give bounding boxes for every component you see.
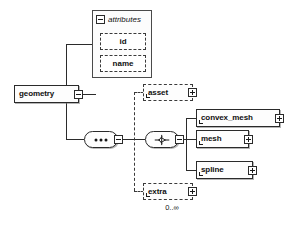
- compositor-choice-collapse-icon[interactable]: [175, 135, 184, 144]
- compositor-sequence-collapse-icon[interactable]: [114, 135, 123, 144]
- choice-switch-icon: [155, 134, 170, 145]
- element-extra-occurrence-label: 0..∞: [152, 204, 192, 212]
- element-spline-expand-icon[interactable]: [248, 166, 257, 175]
- element-geometry-collapse-icon[interactable]: [74, 90, 83, 99]
- element-mesh-required-marker: [199, 141, 203, 145]
- element-extra[interactable]: extra: [143, 183, 193, 200]
- xsd-schema-diagram: attributes id name geometry asset conve: [0, 0, 286, 225]
- element-mesh-expand-icon[interactable]: [244, 135, 253, 144]
- attribute-id[interactable]: id: [100, 33, 146, 50]
- element-spline-required-marker: [199, 172, 203, 176]
- element-convex-mesh[interactable]: convex_mesh: [196, 109, 280, 127]
- element-asset-required-marker: [146, 94, 150, 98]
- compositor-choice[interactable]: [145, 131, 179, 148]
- element-geometry-label: geometry: [15, 90, 57, 98]
- element-asset-expand-icon[interactable]: [188, 88, 197, 97]
- sequence-dots-icon: [95, 138, 108, 141]
- element-convex-mesh-label: convex_mesh: [197, 114, 256, 122]
- connector-optional-bus: [134, 92, 135, 191]
- element-mesh[interactable]: mesh: [196, 130, 249, 148]
- element-geometry[interactable]: geometry: [14, 85, 79, 103]
- element-asset[interactable]: asset: [143, 84, 193, 101]
- attributes-title: attributes: [108, 16, 141, 24]
- element-extra-required-marker: [146, 193, 150, 197]
- attributes-header[interactable]: attributes: [96, 15, 141, 24]
- element-spline[interactable]: spline: [196, 161, 253, 179]
- compositor-sequence[interactable]: [84, 131, 118, 148]
- attribute-id-label: id: [119, 38, 126, 46]
- connector-children-bus: [186, 118, 187, 170]
- element-convex-mesh-expand-icon[interactable]: [275, 114, 284, 123]
- attributes-collapse-icon[interactable]: [96, 15, 105, 24]
- connector-trunk-to-sequence: [66, 139, 84, 140]
- element-extra-expand-icon[interactable]: [188, 187, 197, 196]
- connector-trunk-to-attributes: [66, 44, 92, 45]
- attribute-name[interactable]: name: [100, 55, 146, 72]
- attributes-group: attributes id name: [92, 10, 152, 78]
- attribute-name-label: name: [113, 60, 134, 68]
- element-convex-mesh-required-marker: [199, 120, 203, 124]
